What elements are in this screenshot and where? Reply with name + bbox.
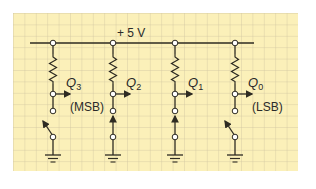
node-terminal (232, 108, 238, 114)
node-terminal (110, 108, 116, 114)
node-terminal (232, 91, 238, 97)
node-terminal (110, 40, 116, 46)
node-terminal (172, 134, 178, 140)
node-terminal (110, 134, 116, 140)
node-terminal (172, 108, 178, 114)
grid-lines (13, 13, 298, 171)
node-terminal (50, 91, 56, 97)
circuit-diagram: + 5 V Q3(MSB)Q2Q1Q0(LSB) (0, 0, 316, 189)
bit-significance-label: (LSB) (252, 100, 283, 114)
node-terminal (172, 91, 178, 97)
node-terminal (50, 40, 56, 46)
node-terminal (232, 40, 238, 46)
node-terminal (110, 91, 116, 97)
node-terminal (232, 134, 238, 140)
node-terminal (50, 134, 56, 140)
bit-significance-label: (MSB) (70, 100, 104, 114)
node-terminal (172, 40, 178, 46)
node-terminal (50, 108, 56, 114)
supply-label: + 5 V (117, 26, 145, 40)
